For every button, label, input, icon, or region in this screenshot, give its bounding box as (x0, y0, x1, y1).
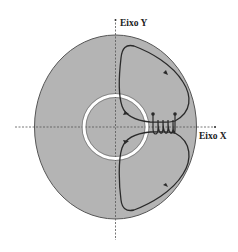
y-axis-label: Eixo Y (120, 18, 147, 28)
magnetic-field-diagram: Eixo Y Eixo X (0, 0, 238, 252)
coil-terminal-right (173, 112, 177, 116)
x-axis-arrow-icon (214, 126, 216, 128)
x-axis-label: Eixo X (199, 131, 227, 141)
coil-terminal-left (151, 112, 155, 116)
y-axis-arrow-icon (115, 19, 117, 21)
